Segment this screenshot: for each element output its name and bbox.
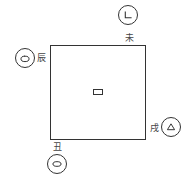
label-wei: 未 — [125, 33, 134, 43]
node-xu — [161, 117, 181, 137]
ellipse-icon — [48, 155, 66, 173]
label-chen: 辰 — [37, 53, 46, 63]
node-chou — [47, 154, 67, 174]
label-chou: 丑 — [53, 142, 62, 152]
center-marker — [93, 89, 103, 95]
triangle-icon — [162, 118, 180, 136]
corner-line-icon — [119, 6, 137, 24]
node-chen — [15, 48, 35, 68]
label-xu: 戌 — [150, 123, 159, 133]
bowl-icon — [16, 49, 34, 67]
node-wei — [118, 5, 138, 25]
